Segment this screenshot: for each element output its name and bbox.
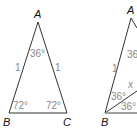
angle-label-b: 72° <box>13 100 28 111</box>
vertex-label-a-right: A <box>126 4 134 16</box>
vertex-label-b: B <box>3 116 10 128</box>
side-label-ab-right: 1 <box>112 63 118 74</box>
angle-label-a-right: 36 <box>127 49 137 60</box>
side-ac-right <box>131 18 137 28</box>
vertex-label-a: A <box>33 8 41 20</box>
bisector-label-x: x <box>127 79 134 90</box>
triangle-right-cropped: A B 36 1 x 36° 36° <box>101 4 137 128</box>
angle-label-a: 36° <box>30 48 45 59</box>
side-label-ab: 1 <box>15 62 21 73</box>
side-label-ac: 1 <box>55 62 61 73</box>
triangle-abc-left: A B C 36° 72° 72° 1 1 <box>3 8 71 128</box>
diagram-canvas: A B C 36° 72° 72° 1 1 A B 36 1 x 36° 36° <box>0 0 137 132</box>
vertex-label-c: C <box>63 116 71 128</box>
angle-label-b-lower: 36° <box>121 101 136 112</box>
angle-label-c: 72° <box>46 100 61 111</box>
vertex-label-b-right: B <box>101 116 108 128</box>
